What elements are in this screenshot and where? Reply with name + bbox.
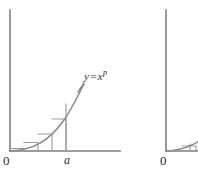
- left-panel-group: [10, 10, 120, 151]
- left-panel-curve: [10, 84, 84, 151]
- inscribed-rectangle-4: [52, 119, 66, 151]
- right-panel-group: [166, 10, 198, 151]
- left-panel-inscribed-rectangles: [10, 119, 66, 151]
- figure-drawing: [0, 0, 198, 177]
